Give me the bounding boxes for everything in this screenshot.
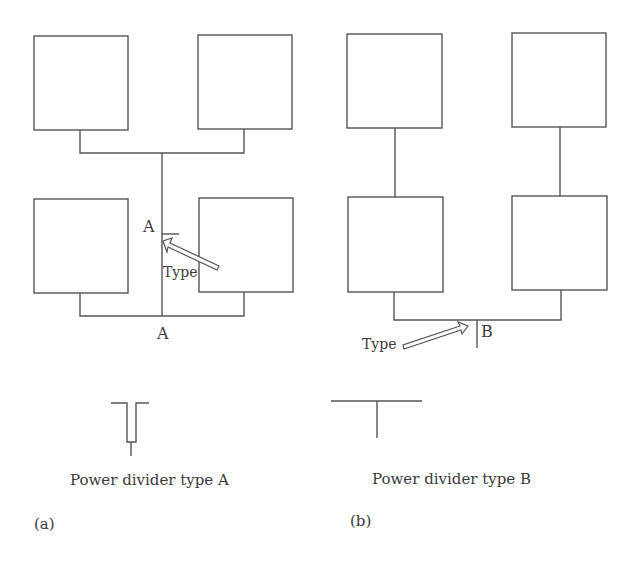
panel-tag-a: (a) <box>34 517 55 532</box>
patch-a-top-left <box>34 36 128 130</box>
symbol-divider-type-a <box>111 403 149 456</box>
panel-tag-b: (b) <box>350 514 371 529</box>
patch-a-bottom-left <box>34 199 128 293</box>
feed-a-top-bus <box>80 129 244 153</box>
caption-type-b: Power divider type B <box>372 472 531 487</box>
arrow-b-icon <box>403 322 468 349</box>
patch-a-bottom-right <box>199 198 293 292</box>
junction-label-a-top: A <box>143 219 155 235</box>
type-label-a: Type <box>163 265 198 279</box>
patch-a-top-right <box>198 35 292 129</box>
feed-b-bus <box>394 290 561 320</box>
patch-b-bottom-right <box>512 196 607 290</box>
patch-b-top-right <box>512 33 606 127</box>
junction-label-a-bottom: A <box>157 326 169 342</box>
caption-type-a: Power divider type A <box>70 473 229 488</box>
patch-b-bottom-left <box>348 197 443 292</box>
junction-label-b: B <box>481 324 493 340</box>
patch-b-top-left <box>347 34 442 128</box>
type-label-b: Type <box>362 337 397 351</box>
